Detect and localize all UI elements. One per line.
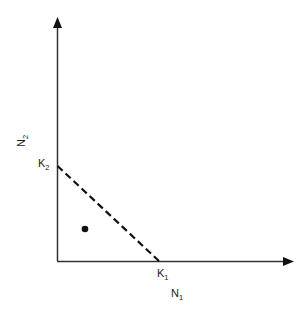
k2-label: K2	[38, 157, 50, 172]
y-axis-arrow-icon	[53, 17, 62, 28]
isocline-dashed-line	[58, 166, 160, 261]
k1-label: K1	[157, 267, 169, 282]
x-axis-arrow-icon	[283, 257, 294, 266]
phase-plane-diagram: K2 K1 N1 N2	[0, 0, 306, 313]
y-axis-label: N2	[15, 135, 30, 147]
state-point	[82, 226, 89, 233]
x-axis-label: N1	[171, 287, 183, 302]
